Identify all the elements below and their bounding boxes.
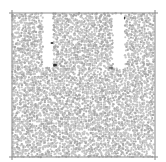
particle <box>117 106 119 108</box>
particle <box>66 80 68 82</box>
particle <box>109 118 111 120</box>
particle <box>72 83 74 85</box>
particle <box>152 58 154 60</box>
particle <box>102 128 104 130</box>
marker-1 <box>51 42 54 44</box>
particle <box>106 106 108 108</box>
particle <box>150 79 152 81</box>
particle <box>128 129 130 131</box>
particle <box>138 21 141 24</box>
particle <box>25 30 27 32</box>
particle <box>136 31 138 33</box>
particle <box>122 73 124 75</box>
particle <box>141 125 143 127</box>
particle <box>22 49 25 52</box>
particle <box>127 40 129 42</box>
particle <box>59 53 61 55</box>
particle <box>14 46 16 48</box>
particle <box>91 148 93 150</box>
particle <box>24 105 27 108</box>
particle <box>19 109 21 111</box>
particle <box>129 90 131 92</box>
particle <box>87 20 89 22</box>
particle <box>93 62 95 64</box>
particle <box>113 146 115 148</box>
particle <box>53 125 55 127</box>
particle <box>105 133 107 135</box>
particle <box>127 15 129 17</box>
particle <box>145 154 148 157</box>
particle <box>150 68 152 70</box>
particle <box>73 109 76 112</box>
particle <box>100 68 102 70</box>
particle <box>94 34 96 36</box>
particle <box>14 56 16 58</box>
particle <box>42 148 44 150</box>
particle <box>93 106 95 108</box>
particle <box>125 117 127 119</box>
particle <box>43 118 45 120</box>
particle <box>36 51 38 53</box>
particle <box>85 127 87 129</box>
particle <box>39 147 41 149</box>
particle <box>17 91 19 93</box>
particle <box>22 27 24 29</box>
particle <box>124 95 127 98</box>
particle <box>40 121 42 123</box>
particle <box>57 76 59 78</box>
particle <box>89 41 91 43</box>
particle <box>130 136 132 138</box>
particle <box>79 106 81 108</box>
particle <box>55 23 58 26</box>
particle <box>95 41 97 43</box>
particle <box>100 21 102 23</box>
particle <box>95 19 97 21</box>
particle <box>48 135 51 138</box>
particle <box>61 118 64 121</box>
particle <box>141 144 143 146</box>
particle <box>68 30 70 32</box>
particle <box>104 116 106 118</box>
particle <box>85 68 87 70</box>
particle <box>59 34 61 36</box>
particle <box>37 99 39 101</box>
particle <box>124 109 126 111</box>
particle <box>70 104 72 106</box>
particle <box>65 54 67 56</box>
particle <box>113 81 115 83</box>
particle <box>61 95 64 98</box>
particle <box>105 94 107 96</box>
particle <box>153 120 155 122</box>
particle <box>131 80 133 82</box>
particle <box>63 20 65 22</box>
particle <box>87 104 89 106</box>
particle <box>38 140 40 142</box>
particle <box>22 150 24 152</box>
particle <box>90 45 93 48</box>
particle <box>48 131 50 133</box>
particle <box>48 155 50 157</box>
particle <box>98 119 101 122</box>
particle <box>62 32 65 35</box>
particle <box>66 29 68 31</box>
particle <box>93 73 95 75</box>
particle <box>44 142 46 144</box>
particle <box>124 139 126 141</box>
particle <box>19 60 21 62</box>
particle <box>150 140 152 142</box>
particle <box>20 92 23 95</box>
particle <box>106 137 108 139</box>
particle <box>37 107 40 110</box>
particle <box>14 28 16 30</box>
particle <box>57 117 59 119</box>
particle <box>151 107 153 109</box>
particle <box>42 105 44 107</box>
particle <box>59 133 61 135</box>
particle <box>63 71 66 74</box>
particle <box>126 152 128 154</box>
particle <box>140 116 142 118</box>
particle <box>98 92 100 94</box>
particle <box>21 66 23 68</box>
particle <box>55 16 57 18</box>
particle <box>49 75 51 77</box>
